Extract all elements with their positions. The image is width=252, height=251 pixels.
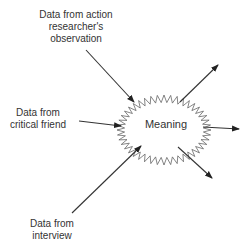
label-line: Data from [2, 107, 74, 119]
meaning-label: Meaning [138, 118, 194, 130]
label-interview: Data from interview [14, 218, 90, 242]
arrow-interview [72, 146, 141, 213]
label-critical-friend: Data from critical friend [2, 107, 74, 131]
label-line: interview [14, 230, 90, 242]
arrow-observation [86, 50, 134, 102]
label-line: critical friend [2, 119, 74, 131]
label-line: Data from [14, 218, 90, 230]
label-line: observation [28, 33, 124, 45]
arrow-output-bottom [178, 147, 212, 178]
label-observation: Data from action researcher's observatio… [28, 9, 124, 45]
label-line: researcher's [28, 21, 124, 33]
arrow-critical-friend [79, 121, 121, 126]
starburst-shape [117, 95, 211, 165]
label-line: Data from action [28, 9, 124, 21]
arrow-output-right [203, 127, 239, 129]
arrow-output-top [180, 65, 218, 102]
